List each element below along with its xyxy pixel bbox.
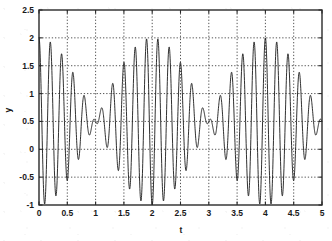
figure-container: 00.511.522.533.544.55 2.521.510.50-0.5-1…	[0, 0, 332, 241]
chart-canvas: 00.511.522.533.544.55 2.521.510.50-0.5-1…	[0, 0, 332, 241]
y-tick-label: -0.5	[19, 172, 34, 182]
x-tick-label: 5	[320, 208, 325, 218]
x-tick-label: 1	[93, 208, 98, 218]
x-tick-label: 0	[37, 208, 42, 218]
x-tick-label: 2	[150, 208, 155, 218]
x-axis-title: t	[180, 225, 183, 235]
y-tick-label: 2	[29, 33, 34, 43]
y-tick-label: 0.5	[22, 116, 34, 126]
x-tick-label: 3.5	[231, 208, 243, 218]
y-tick-label: 2.5	[22, 5, 34, 15]
x-tick-labels: 00.511.522.533.544.55	[37, 208, 325, 218]
y-tick-label: 0	[29, 144, 34, 154]
y-tick-label: -1	[26, 200, 34, 210]
x-tick-label: 4	[263, 208, 268, 218]
x-tick-label: 0.5	[61, 208, 73, 218]
x-tick-label: 1.5	[118, 208, 130, 218]
y-axis-title: y	[3, 107, 13, 112]
y-tick-label: 1	[29, 89, 34, 99]
x-tick-label: 2.5	[175, 208, 187, 218]
x-tick-label: 3	[206, 208, 211, 218]
y-tick-label: 1.5	[22, 61, 34, 71]
x-tick-label: 4.5	[288, 208, 300, 218]
y-tick-labels: 2.521.510.50-0.5-1	[19, 5, 34, 210]
